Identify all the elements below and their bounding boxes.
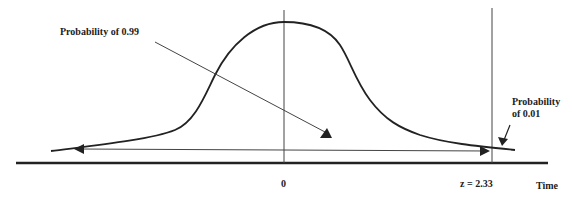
left-arrowhead-icon xyxy=(74,144,84,154)
critical-value-label: z = 2.33 xyxy=(460,178,493,190)
x-axis-label: Time xyxy=(536,180,558,192)
pointer-001-arrowhead-icon xyxy=(498,137,508,146)
range-arrow-line xyxy=(78,149,488,151)
pointer-099-arrowhead-icon xyxy=(320,128,332,138)
probability-001-pointer xyxy=(504,125,510,140)
probability-001-label-line2: of 0.01 xyxy=(512,108,540,120)
normal-curve-diagram: Probability of 0.99 Probability of 0.01 … xyxy=(0,0,572,204)
zero-tick-label: 0 xyxy=(281,178,286,190)
bell-curve xyxy=(51,22,515,151)
probability-099-pointer xyxy=(155,42,325,132)
probability-099-label: Probability of 0.99 xyxy=(60,26,139,38)
probability-001-label-line1: Probability xyxy=(512,96,560,108)
